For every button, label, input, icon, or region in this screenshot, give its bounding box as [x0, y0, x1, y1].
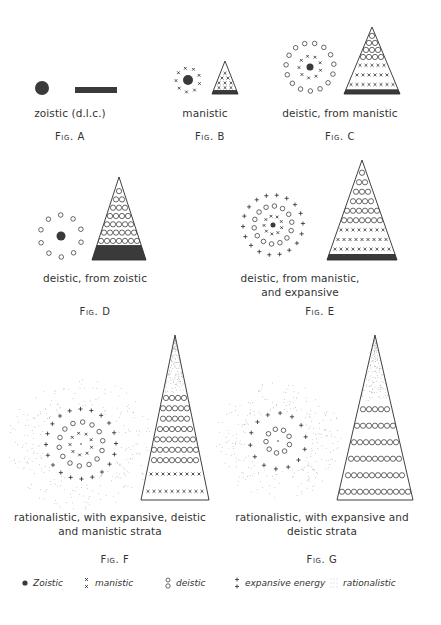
caption-fig-b: manistic: [182, 106, 227, 120]
caption-fig-e-line2: and expansive: [261, 285, 339, 299]
label-fig-f: Fig. F: [101, 554, 130, 565]
legend-item-expansive: expansive energy: [232, 576, 325, 590]
caption-fig-c: deistic, from manistic: [282, 106, 397, 120]
caption-fig-f-line2: and manistic strata: [58, 524, 162, 538]
zoistic-core: [271, 223, 276, 228]
pyramid-outline: [212, 61, 238, 94]
legend-label: rationalistic: [343, 578, 396, 588]
manistic-cross-icon: [82, 576, 92, 590]
figure-b: [175, 61, 240, 94]
pyramid-outline: [141, 335, 209, 500]
label-fig-e: Fig. E: [305, 306, 335, 317]
caption-fig-g-line1: rationalistic, with expansive and: [235, 510, 408, 524]
caption-fig-f-line1: rationalistic, with expansive, deistic: [14, 510, 206, 524]
deistic-circle-icon: [163, 576, 173, 590]
pyramid-outline: [344, 27, 400, 94]
legend-label: manistic: [95, 578, 133, 588]
legend-label: expansive energy: [245, 578, 325, 588]
label-fig-b: Fig. B: [195, 131, 225, 142]
figure-e: [241, 160, 399, 260]
figure-c: [284, 27, 402, 94]
caption-fig-d: deistic, from zoistic: [43, 271, 147, 285]
figure-d: [39, 177, 148, 260]
pyramid-outline: [337, 335, 413, 500]
pyramid-outline: [327, 160, 397, 260]
figure-g: [216, 335, 413, 500]
zoistic-core: [277, 440, 279, 442]
zoistic-core: [57, 232, 66, 241]
caption-fig-e-line1: deistic, from manistic,: [241, 271, 360, 285]
expansive-plus-icon: [232, 576, 242, 590]
legend-item-zoistic: Zoistic: [20, 576, 63, 590]
zoistic-core: [183, 75, 193, 85]
label-fig-g: Fig. G: [307, 554, 338, 565]
figure-f: [9, 335, 209, 509]
caption-fig-a: zoistic (d.l.c.): [34, 106, 106, 120]
rationalistic-stipple-icon: [330, 576, 340, 590]
figure-a: [35, 81, 117, 95]
label-fig-a: Fig. A: [55, 131, 85, 142]
label-fig-c: Fig. C: [325, 131, 355, 142]
legend-item-rationalistic: rationalistic: [330, 576, 396, 590]
legend-item-deistic: deistic: [163, 576, 205, 590]
label-fig-d: Fig. D: [80, 306, 111, 317]
zoistic-core: [35, 81, 49, 95]
legend: Zoistic manistic deistic expansive energ…: [0, 576, 441, 592]
zoistic-dot-icon: [20, 576, 30, 590]
legend-label: deistic: [176, 578, 205, 588]
zoistic-core: [80, 443, 82, 445]
legend-label: Zoistic: [33, 578, 63, 588]
zoistic-core: [307, 64, 314, 71]
caption-fig-g-line2: deistic strata: [287, 524, 357, 538]
legend-item-manistic: manistic: [82, 576, 133, 590]
